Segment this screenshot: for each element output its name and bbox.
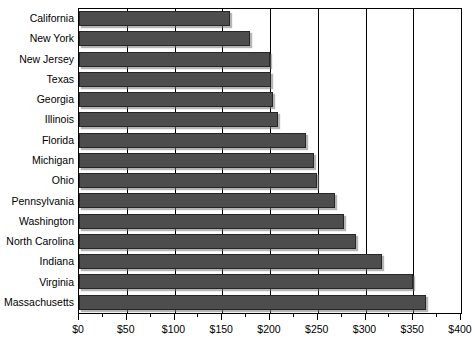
category-label: Florida — [0, 134, 74, 146]
category-label: Ohio — [0, 174, 74, 186]
axis-tick-major — [317, 313, 318, 320]
category-label: Indiana — [0, 255, 74, 267]
bar — [79, 274, 413, 289]
bar-row — [79, 110, 461, 130]
bar-row — [79, 9, 461, 29]
category-label: Michigan — [0, 154, 74, 166]
bar — [79, 254, 382, 269]
category-label: Illinois — [0, 113, 74, 125]
axis-tick-label: $250 — [305, 323, 328, 335]
bar-row — [79, 50, 461, 70]
bar — [79, 72, 271, 87]
axis-tick-label: $50 — [117, 323, 135, 335]
plot-area — [78, 8, 462, 314]
bar — [79, 234, 356, 249]
bar — [79, 214, 344, 229]
axis-tick-minor — [150, 313, 151, 317]
bar — [79, 133, 306, 148]
bar — [79, 153, 314, 168]
bar-row — [79, 131, 461, 151]
bar — [79, 92, 273, 107]
category-label: Virginia — [0, 276, 74, 288]
bars-layer — [79, 9, 461, 313]
axis-tick-label: $0 — [72, 323, 84, 335]
category-label: California — [0, 12, 74, 24]
bar-row — [79, 29, 461, 49]
axis-tick-label: $150 — [210, 323, 233, 335]
axis-tick-label: $350 — [401, 323, 424, 335]
category-label: Georgia — [0, 93, 74, 105]
bar — [79, 52, 270, 67]
axis-tick-major — [269, 313, 270, 320]
bar-row — [79, 90, 461, 110]
axis-tick-minor — [388, 313, 389, 317]
category-axis: CaliforniaNew YorkNew JerseyTexasGeorgia… — [0, 8, 74, 312]
axis-tick-major — [126, 313, 127, 320]
axis-tick-label: $300 — [353, 323, 376, 335]
bar-row — [79, 191, 461, 211]
bar-row — [79, 151, 461, 171]
axis-tick-minor — [102, 313, 103, 317]
category-label: Pennsylvania — [0, 195, 74, 207]
bar-row — [79, 171, 461, 191]
bar — [79, 112, 278, 127]
bar-chart: CaliforniaNew YorkNew JerseyTexasGeorgia… — [0, 0, 475, 349]
axis-tick-major — [174, 313, 175, 320]
bar — [79, 11, 230, 26]
bar-row — [79, 252, 461, 272]
bar-row — [79, 293, 461, 313]
category-label: Washington — [0, 215, 74, 227]
axis-tick-major — [78, 313, 79, 320]
axis-tick-label: $400 — [448, 323, 471, 335]
bar — [79, 173, 317, 188]
axis-tick-minor — [293, 313, 294, 317]
axis-tick-major — [412, 313, 413, 320]
axis-tick-major — [221, 313, 222, 320]
axis-tick-label: $100 — [162, 323, 185, 335]
axis-tick-minor — [436, 313, 437, 317]
category-label: North Carolina — [0, 235, 74, 247]
axis-tick-major — [365, 313, 366, 320]
axis-tick-minor — [245, 313, 246, 317]
bar — [79, 295, 426, 310]
axis-tick-major — [460, 313, 461, 320]
bar-row — [79, 272, 461, 292]
category-label: Texas — [0, 73, 74, 85]
bar-row — [79, 212, 461, 232]
axis-tick-minor — [197, 313, 198, 317]
bar — [79, 193, 335, 208]
bar-row — [79, 232, 461, 252]
category-label: Massachusetts — [0, 296, 74, 308]
category-label: New York — [0, 32, 74, 44]
axis-tick-label: $200 — [257, 323, 280, 335]
category-label: New Jersey — [0, 53, 74, 65]
bar — [79, 31, 250, 46]
bar-row — [79, 70, 461, 90]
value-axis: $0$50$100$150$200$250$300$350$400 — [78, 313, 460, 349]
axis-tick-minor — [341, 313, 342, 317]
